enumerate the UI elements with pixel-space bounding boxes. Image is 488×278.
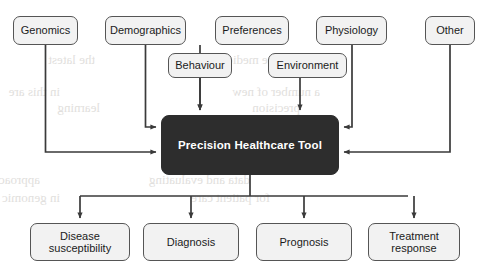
node-demographics-label: Demographics	[106, 24, 185, 36]
node-treatment-response[interactable]: Treatment response	[368, 223, 460, 261]
node-prognosis-label: Prognosis	[276, 236, 333, 248]
node-preferences-label: Preferences	[218, 24, 285, 36]
precision-healthcare-diagram: the latestin this arelearningapproaches …	[0, 0, 488, 278]
node-demographics[interactable]: Demographics	[105, 16, 186, 45]
node-diagnosis[interactable]: Diagnosis	[143, 223, 239, 261]
node-behaviour-label: Behaviour	[171, 59, 229, 71]
node-other[interactable]: Other	[425, 16, 475, 45]
node-disease-susceptibility-label: Disease susceptibility	[45, 230, 115, 255]
node-physiology-label: Physiology	[321, 24, 382, 36]
node-environment[interactable]: Environment	[268, 53, 347, 78]
node-genomics[interactable]: Genomics	[13, 16, 78, 45]
node-prognosis[interactable]: Prognosis	[256, 223, 352, 261]
node-physiology[interactable]: Physiology	[316, 16, 387, 45]
node-diagnosis-label: Diagnosis	[163, 236, 219, 248]
node-precision-healthcare-tool[interactable]: Precision Healthcare Tool	[161, 115, 339, 175]
node-behaviour[interactable]: Behaviour	[168, 53, 232, 78]
node-precision-healthcare-tool-label: Precision Healthcare Tool	[174, 139, 326, 152]
node-layer: Genomics Demographics Preferences Physio…	[0, 0, 488, 278]
node-genomics-label: Genomics	[17, 24, 75, 36]
node-environment-label: Environment	[273, 59, 343, 71]
node-preferences[interactable]: Preferences	[215, 16, 289, 45]
node-disease-susceptibility[interactable]: Disease susceptibility	[30, 223, 130, 261]
node-treatment-response-label: Treatment response	[385, 230, 443, 255]
node-other-label: Other	[432, 24, 468, 36]
